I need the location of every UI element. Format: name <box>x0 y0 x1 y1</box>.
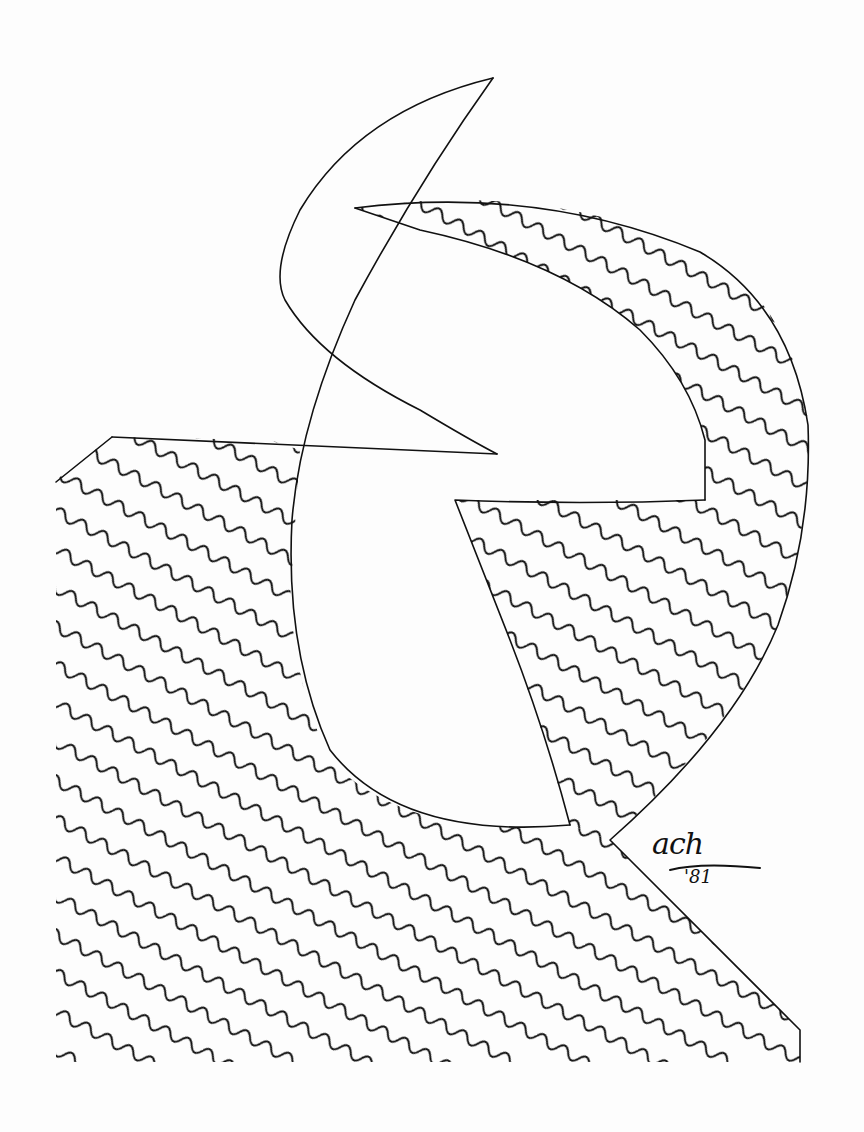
wavy-hatching-right <box>340 180 820 860</box>
signature-year: '81 <box>684 866 712 887</box>
g-left-edge <box>291 78 570 827</box>
artwork-canvas: ach '81 <box>0 0 864 1132</box>
line-drawing <box>0 0 864 1132</box>
crescent-outer-curve <box>280 78 497 454</box>
signature-name: ach <box>652 826 703 861</box>
